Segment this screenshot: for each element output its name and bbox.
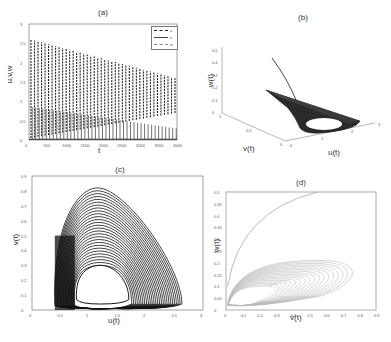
panel-c-y-tick: 0.9 xyxy=(21,174,27,179)
panel-d-y-tick: 0 xyxy=(214,308,216,313)
panel-c-y-tick: 0.6 xyxy=(21,219,27,224)
panel-d-x-tick: 0.4 xyxy=(291,313,297,318)
panel-c-ylabel: v(t) xyxy=(11,234,20,246)
panel-d: (d) w(t) v(t) 00.10.20.30.40.50.60.70.80… xyxy=(200,165,391,342)
panel-c-y-tick: 0.4 xyxy=(21,248,27,253)
panel-c-y-tick: 0 xyxy=(21,308,23,313)
panel-b-y-tick: 0 xyxy=(280,142,282,147)
panel-c-y-tick: 0.1 xyxy=(21,293,27,298)
panel-c-x-tick: 2 xyxy=(143,313,145,318)
panel-d-x-tick: 0.6 xyxy=(324,313,330,318)
panel-c-x-tick: 0 xyxy=(29,313,31,318)
panel-d-y-tick: 0.25 xyxy=(214,249,222,254)
panel-d-x-tick: 0.7 xyxy=(341,313,347,318)
panel-a-x-tick: 1500 xyxy=(81,143,90,148)
panel-d-y-tick: 0.2 xyxy=(214,261,220,266)
panel-a-y-tick: 0.5 xyxy=(20,119,26,124)
panel-c-plot xyxy=(0,165,210,342)
panel-d-x-tick: 0.9 xyxy=(374,313,380,318)
panel-b-z-tick: 0.4 xyxy=(212,60,218,65)
panel-a-y-tick: 2.5 xyxy=(20,41,26,46)
panel-c-x-tick: 1 xyxy=(86,313,88,318)
panel-d-y-tick: 0.3 xyxy=(214,237,220,242)
panel-a-y-tick: 0 xyxy=(20,138,22,143)
panel-d-y-tick: 0.4 xyxy=(214,214,220,219)
panel-b-z-tick: 0 xyxy=(212,110,214,115)
panel-d-x-tick: 0.5 xyxy=(307,313,313,318)
panel-d-y-tick: 0.35 xyxy=(214,225,222,230)
panel-d-y-tick: 0.5 xyxy=(214,190,220,195)
panel-b-z-tick: 0.1 xyxy=(212,98,218,103)
panel-d-x-tick: 0.1 xyxy=(241,313,247,318)
panel-d-x-tick: 0.2 xyxy=(257,313,263,318)
panel-d-x-tick: 0 xyxy=(224,313,226,318)
panel-a-x-tick: 2500 xyxy=(118,143,127,148)
panel-c-x-tick: 0.5 xyxy=(58,313,64,318)
panel-d-x-tick: 0.3 xyxy=(274,313,280,318)
panel-a-ylabel: u,v,w xyxy=(5,65,14,83)
panel-c-x-tick: 1.5 xyxy=(115,313,121,318)
panel-c-y-tick: 0.3 xyxy=(21,263,27,268)
panel-b-x-tick: 0 xyxy=(290,143,292,148)
panel-d-y-tick: 0.15 xyxy=(214,273,222,278)
panel-d-y-tick: 0.45 xyxy=(214,202,222,207)
legend-v: v xyxy=(170,35,172,40)
legend-u: u xyxy=(170,28,172,33)
panel-b: (b) w(t) v(t) u(t) 00.10.20.30.40.510.50… xyxy=(200,0,391,165)
panel-b-z-tick: 0.5 xyxy=(212,48,218,53)
panel-b-x-tick: 3 xyxy=(378,122,380,127)
panel-a: (a) u,v,w t 0500100015002000250030003500… xyxy=(0,0,200,165)
panel-c-x-tick: 2.5 xyxy=(172,313,178,318)
legend-w: w xyxy=(170,42,173,47)
panel-c: (c) v(t) u(t) 00.511.522.5300.10.20.30.4… xyxy=(0,165,210,342)
panel-a-y-tick: 2 xyxy=(20,61,22,66)
panel-b-x-tick: 2 xyxy=(351,129,353,134)
panel-a-x-tick: 4000 xyxy=(173,143,182,148)
panel-a-legend: u v w xyxy=(151,26,178,50)
panel-d-x-tick: 0.8 xyxy=(357,313,363,318)
panel-a-plot xyxy=(0,0,200,165)
panel-b-xlabel: u(t) xyxy=(328,148,340,157)
panel-a-x-tick: 3000 xyxy=(136,143,145,148)
panel-b-y-tick: 1 xyxy=(219,114,221,119)
panel-d-y-tick: 0.05 xyxy=(214,296,222,301)
panel-b-x-tick: 1 xyxy=(321,136,323,141)
panel-b-z-tick: 0.2 xyxy=(212,85,218,90)
panel-a-x-tick: 0 xyxy=(25,143,27,148)
panel-a-x-tick: 500 xyxy=(44,143,51,148)
panel-a-y-tick: 1 xyxy=(20,99,22,104)
panel-b-ylabel: v(t) xyxy=(243,144,255,153)
panel-c-y-tick: 0.7 xyxy=(21,204,27,209)
panel-c-y-tick: 0.2 xyxy=(21,278,27,283)
panel-a-x-tick: 3500 xyxy=(155,143,164,148)
panel-b-z-tick: 0.3 xyxy=(212,73,218,78)
panel-b-plot xyxy=(200,0,391,165)
panel-a-y-tick: 3 xyxy=(20,22,22,27)
panel-c-y-tick: 0.8 xyxy=(21,189,27,194)
panel-d-y-tick: 0.1 xyxy=(214,284,220,289)
panel-a-x-tick: 1000 xyxy=(62,143,71,148)
panel-c-y-tick: 0.5 xyxy=(21,234,27,239)
panel-a-y-tick: 1.5 xyxy=(20,80,26,85)
panel-b-y-tick: 0.5 xyxy=(246,128,252,133)
panel-a-x-tick: 2000 xyxy=(99,143,108,148)
